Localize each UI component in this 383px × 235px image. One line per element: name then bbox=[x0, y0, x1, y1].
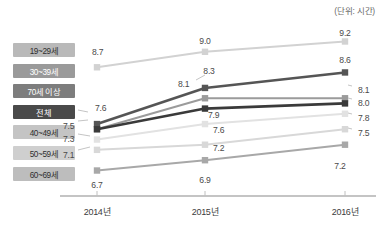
data-point-label-3: 9.2 bbox=[339, 28, 350, 38]
series-line bbox=[97, 41, 345, 67]
chart-root: (단위: 시간) 19~29세30~39세70세 이상전체40~49세50~59… bbox=[0, 0, 383, 235]
data-point-label-16: 7.1 bbox=[63, 150, 74, 160]
x-axis-label-2: 2015년 bbox=[192, 205, 219, 218]
data-point-label-20: 6.9 bbox=[199, 175, 210, 185]
data-point-label-9: 8.1 bbox=[358, 85, 369, 95]
data-point-marker bbox=[342, 69, 348, 75]
x-axis-label-3: 2016년 bbox=[332, 205, 359, 218]
data-point-label-15: 7.8 bbox=[358, 113, 369, 123]
data-point-marker bbox=[342, 126, 348, 132]
label-leader-line bbox=[78, 120, 88, 121]
label-leader-line bbox=[348, 113, 352, 114]
label-leader-line bbox=[78, 147, 90, 150]
data-point-marker bbox=[202, 85, 208, 91]
data-point-marker bbox=[202, 157, 208, 163]
data-point-marker bbox=[94, 126, 100, 132]
data-point-label-11: 7.9 bbox=[208, 110, 219, 120]
data-point-marker bbox=[202, 142, 208, 148]
data-point-label-2: 9.0 bbox=[199, 36, 210, 46]
x-axis-label-1: 2014년 bbox=[84, 205, 111, 218]
data-point-label-21: 7.2 bbox=[334, 161, 345, 171]
data-point-marker bbox=[342, 111, 348, 117]
label-leader-line bbox=[78, 110, 88, 112]
data-point-marker bbox=[342, 38, 348, 44]
label-leader-line bbox=[78, 134, 90, 136]
label-leader-line bbox=[348, 85, 352, 86]
data-point-label-7: 7.5 bbox=[63, 110, 74, 120]
data-point-marker bbox=[202, 49, 208, 55]
series-1 bbox=[94, 38, 348, 70]
label-leader-line bbox=[348, 128, 352, 129]
chart-plot-area: 8.79.09.27.68.38.67.58.18.17.57.98.07.37… bbox=[0, 0, 383, 235]
data-point-marker bbox=[202, 121, 208, 127]
data-point-label-8: 8.1 bbox=[178, 79, 189, 89]
data-point-label-4: 7.6 bbox=[95, 103, 106, 113]
data-point-marker bbox=[342, 100, 348, 106]
data-point-label-6: 8.6 bbox=[339, 55, 350, 65]
data-point-label-18: 7.5 bbox=[358, 128, 369, 138]
data-point-marker bbox=[94, 147, 100, 153]
label-leader-line bbox=[348, 98, 352, 99]
data-point-label-12: 8.0 bbox=[358, 98, 369, 108]
data-point-label-14: 7.6 bbox=[213, 125, 224, 135]
data-point-marker bbox=[94, 64, 100, 70]
data-point-label-1: 8.7 bbox=[92, 47, 103, 57]
data-point-marker bbox=[94, 167, 100, 173]
data-point-label-5: 8.3 bbox=[203, 66, 214, 76]
data-point-label-17: 7.2 bbox=[213, 143, 224, 153]
data-point-marker bbox=[94, 136, 100, 142]
chart-svg bbox=[0, 0, 383, 235]
data-point-label-10: 7.5 bbox=[63, 121, 74, 131]
data-point-marker bbox=[202, 95, 208, 101]
data-point-marker bbox=[342, 142, 348, 148]
data-point-label-13: 7.3 bbox=[63, 134, 74, 144]
data-point-label-19: 6.7 bbox=[91, 180, 102, 190]
